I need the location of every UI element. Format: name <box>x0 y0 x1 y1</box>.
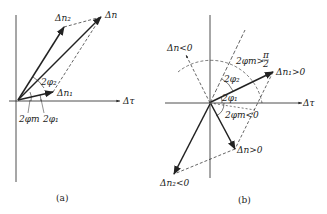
dn1-vector-a <box>18 92 53 100</box>
dn2-neg-label: Δn₂<0 <box>159 178 189 188</box>
dtau-label-a: Δτ <box>122 96 135 106</box>
phi1-label-b: 2φ₁ <box>221 93 238 103</box>
dashed-line <box>210 103 255 110</box>
dn1-pos-label: Δn₁>0 <box>275 67 305 77</box>
phi2-label-a: 2φ₂ <box>40 77 57 87</box>
panel-a: Δn₂ Δn 2φ₂ Δn₁ Δτ 2φm 2φ₁ (a) <box>9 10 135 203</box>
dtau-label-b: Δτ <box>302 98 315 108</box>
phim-gt-label: 2φm> <box>235 56 264 66</box>
dn-label-a: Δn <box>104 10 117 20</box>
angle-arc-phi1 <box>40 95 41 101</box>
panel-b: Δn<0 2φm> π 2 Δn₁>0 2φ₂ 2φ₁ Δτ 2φm<0 Δn>… <box>159 15 315 205</box>
dn2-label-a: Δn₂ <box>54 13 71 23</box>
caption-b: (b) <box>238 195 251 205</box>
dashed-arc <box>178 60 262 103</box>
phim-lt-label: 2φm<0 <box>224 110 259 120</box>
leader-line <box>28 100 30 113</box>
pi-denominator: 2 <box>262 59 269 69</box>
dn-neg-label: Δn<0 <box>166 43 193 53</box>
dashed-line <box>174 149 235 174</box>
phi1-label-a: 2φ₁ <box>42 114 59 124</box>
phi2-label-b: 2φ₂ <box>223 74 240 84</box>
dashed-line <box>53 17 101 92</box>
dn2-vector-b <box>174 104 210 174</box>
phim-label-a: 2φm <box>18 114 40 124</box>
vector-diagram: Δn₂ Δn 2φ₂ Δn₁ Δτ 2φm 2φ₁ (a) Δn<0 2φm> … <box>0 0 327 214</box>
dn1-vector-b <box>211 72 273 102</box>
dn-pos-label: Δn>0 <box>236 145 263 155</box>
dn1-label-a: Δn₁ <box>56 88 73 98</box>
caption-a: (a) <box>56 193 68 203</box>
